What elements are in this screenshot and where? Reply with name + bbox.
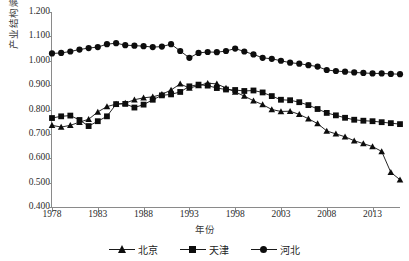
y-tick-mark — [49, 12, 52, 13]
data-point — [232, 87, 238, 93]
y-tick-label: 0.700 — [10, 129, 50, 139]
data-point — [67, 122, 74, 128]
data-point — [370, 118, 376, 124]
x-tick-label: 2008 — [307, 209, 347, 219]
series-line — [52, 83, 400, 180]
legend-label: 北京 — [138, 242, 158, 257]
data-point — [232, 45, 238, 51]
data-point — [113, 40, 119, 46]
data-point — [379, 70, 385, 76]
data-point — [278, 97, 284, 103]
series-北京 — [49, 80, 404, 183]
y-tick-mark — [49, 158, 52, 159]
x-tick-label: 2003 — [261, 209, 301, 219]
data-point — [241, 88, 247, 94]
data-point — [250, 51, 256, 57]
data-point — [259, 101, 266, 107]
y-tick-label: 1.100 — [10, 31, 50, 41]
x-tick-label: 1988 — [124, 209, 164, 219]
data-point — [214, 49, 220, 55]
data-point — [241, 48, 247, 54]
data-point — [177, 81, 184, 87]
data-point — [305, 115, 312, 121]
data-point — [205, 83, 211, 89]
data-point — [315, 106, 321, 112]
data-point — [333, 68, 339, 74]
data-point — [360, 70, 366, 76]
data-point — [168, 91, 174, 97]
y-tick-mark — [49, 85, 52, 86]
data-point — [150, 44, 156, 50]
y-tick-mark — [49, 134, 52, 135]
data-point — [49, 115, 55, 121]
chart-figure: 产业结构熵 1.2001.1001.0000.9000.8000.7000.60… — [0, 0, 409, 261]
chart-legend: 北京天津河北 — [0, 240, 409, 258]
data-series-layer — [52, 12, 400, 207]
square-marker-icon — [189, 246, 196, 253]
data-point — [388, 169, 395, 175]
data-point — [342, 69, 348, 75]
data-point — [388, 71, 394, 77]
plot-area — [52, 12, 400, 207]
data-point — [67, 48, 73, 54]
data-point — [67, 113, 73, 119]
x-tick-label: 2013 — [353, 209, 393, 219]
data-point — [140, 43, 146, 49]
x-tick-label: 1983 — [78, 209, 118, 219]
y-tick-label: 1.200 — [10, 7, 50, 17]
data-point — [269, 56, 275, 62]
data-point — [132, 105, 138, 111]
data-point — [296, 99, 302, 105]
y-tick-mark — [49, 36, 52, 37]
y-tick-mark — [49, 110, 52, 111]
x-axis-title: 年份 — [0, 222, 409, 236]
data-point — [314, 120, 321, 126]
data-point — [186, 83, 192, 89]
data-point — [379, 119, 385, 125]
data-point — [159, 92, 165, 98]
data-point — [195, 50, 201, 56]
legend-swatch — [251, 244, 277, 254]
data-point — [296, 61, 302, 67]
data-point — [223, 87, 229, 93]
data-point — [378, 148, 385, 154]
legend-swatch — [180, 244, 206, 254]
data-point — [150, 97, 156, 103]
data-point — [351, 137, 358, 143]
data-point — [76, 46, 82, 52]
legend-item-河北[interactable]: 河北 — [251, 242, 300, 257]
legend-item-天津[interactable]: 天津 — [180, 242, 229, 257]
data-point — [58, 50, 64, 56]
data-point — [58, 113, 64, 119]
data-point — [49, 50, 55, 56]
y-tick-label: 1.000 — [10, 56, 50, 66]
data-point — [324, 67, 330, 73]
triangle-marker-icon — [118, 245, 126, 253]
data-point — [141, 102, 147, 108]
legend-swatch — [109, 244, 135, 254]
legend-item-北京[interactable]: 北京 — [109, 242, 158, 257]
data-point — [113, 101, 119, 107]
data-point — [314, 64, 320, 70]
data-point — [250, 97, 257, 103]
y-tick-label: 0.800 — [10, 105, 50, 115]
data-point — [122, 42, 128, 48]
data-point — [260, 90, 266, 96]
data-point — [333, 112, 339, 118]
data-point — [177, 89, 183, 95]
y-tick-label: 0.600 — [10, 153, 50, 163]
data-point — [351, 117, 357, 123]
y-tick-label: 0.900 — [10, 80, 50, 90]
data-point — [86, 45, 92, 51]
data-point — [95, 44, 101, 50]
data-point — [95, 118, 101, 124]
data-point — [159, 44, 165, 50]
data-point — [214, 85, 220, 91]
data-point — [131, 43, 137, 49]
data-point — [104, 113, 110, 119]
data-point — [86, 123, 92, 129]
data-point — [287, 60, 293, 66]
data-point — [196, 82, 202, 88]
data-point — [268, 106, 275, 112]
data-point — [77, 117, 83, 123]
